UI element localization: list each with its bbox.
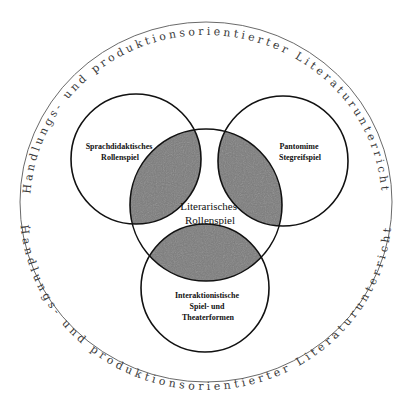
outer-ring-top-text: Handlungs- und produktionsorientierter L… bbox=[20, 25, 391, 194]
label-pantomime: Pantomime Stegreifspiel bbox=[279, 142, 322, 162]
label-literarisch: Literarisches Rollenspiel bbox=[180, 200, 240, 226]
outer-ring-separator: · bbox=[28, 222, 35, 235]
label-sprachdidaktisch: Sprachdidaktisches Rollenspiel bbox=[86, 142, 155, 162]
venn-diagram: Handlungs- und produktionsorientierter L… bbox=[0, 0, 408, 397]
label-interaktionistisch: Interaktionistische Spiel- und Theaterfo… bbox=[175, 291, 241, 322]
